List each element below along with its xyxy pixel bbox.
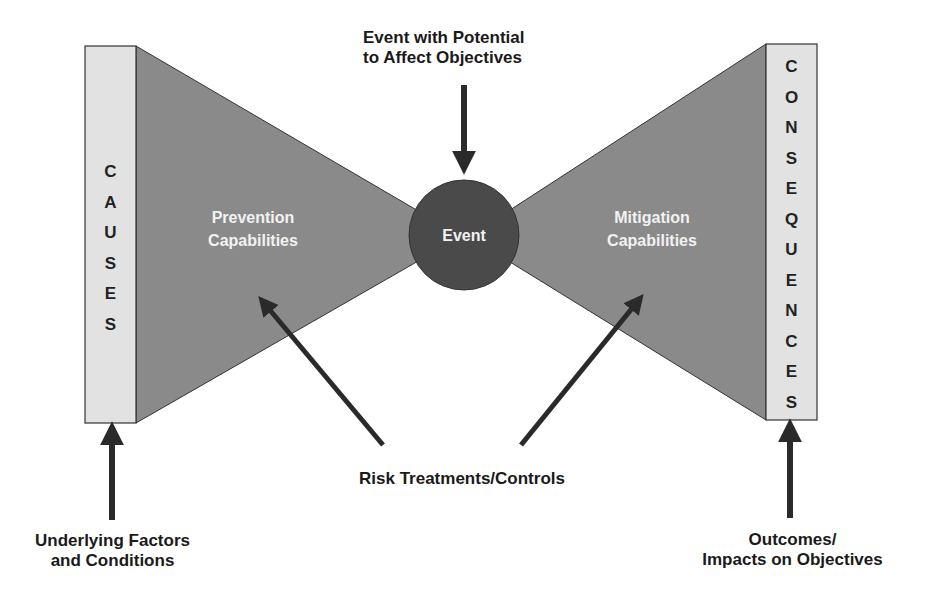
causes-label: C A U S E S (85, 157, 136, 340)
causes-letter: A (104, 188, 116, 219)
consequences-letter: S (786, 388, 797, 419)
consequences-letter: C (785, 52, 797, 83)
causes-letter: E (105, 279, 116, 310)
top-event-line1: Event with Potential (363, 28, 603, 48)
consequences-letter: E (786, 174, 797, 205)
causes-letter: S (105, 249, 116, 280)
underlying-line2: and Conditions (0, 551, 225, 571)
consequences-letter: N (785, 113, 797, 144)
consequences-letter: C (785, 327, 797, 358)
underlying-factors-label: Underlying Factors and Conditions (0, 531, 225, 571)
prevention-treatment-arrow (264, 303, 383, 445)
prevention-line1: Prevention (183, 206, 323, 229)
risk-treatments-label: Risk Treatments/Controls (312, 469, 612, 489)
underlying-line1: Underlying Factors (0, 531, 225, 551)
consequences-letter: N (785, 296, 797, 327)
consequences-label: C O N S E Q U E N C E S (766, 52, 817, 418)
consequences-letter: S (786, 144, 797, 175)
consequences-letter: O (785, 83, 798, 114)
consequences-letter: E (786, 357, 797, 388)
causes-letter: S (105, 310, 116, 341)
consequences-letter: E (786, 266, 797, 297)
outcomes-line1: Outcomes/ (680, 530, 905, 550)
consequences-letter: U (785, 235, 797, 266)
consequences-letter: Q (785, 205, 798, 236)
causes-letter: U (104, 218, 116, 249)
prevention-line2: Capabilities (183, 229, 323, 252)
top-event-label: Event with Potential to Affect Objective… (363, 28, 603, 68)
mitigation-line2: Capabilities (582, 229, 722, 252)
outcomes-label: Outcomes/ Impacts on Objectives (680, 530, 905, 570)
mitigation-line1: Mitigation (582, 206, 722, 229)
prevention-label: Prevention Capabilities (183, 206, 323, 252)
mitigation-treatment-arrow (521, 301, 638, 445)
top-event-line2: to Affect Objectives (363, 48, 603, 68)
mitigation-label: Mitigation Capabilities (582, 206, 722, 252)
outcomes-line2: Impacts on Objectives (680, 550, 905, 570)
causes-letter: C (104, 157, 116, 188)
event-label: Event (424, 224, 504, 247)
